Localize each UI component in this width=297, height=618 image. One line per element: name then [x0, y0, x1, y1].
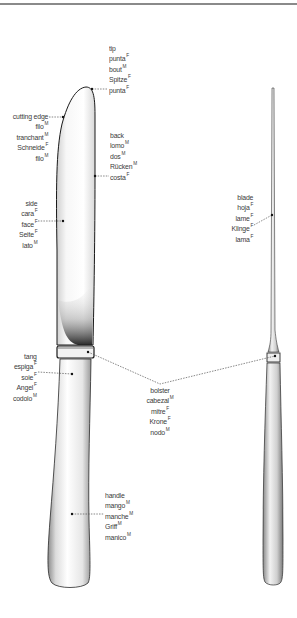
- term: tranchantM: [13, 133, 48, 143]
- term: nodoM: [143, 428, 177, 438]
- term: manicoM: [105, 533, 133, 543]
- knife-front-view: [48, 87, 95, 588]
- term: cabezalM: [143, 396, 177, 406]
- term: latoM: [19, 241, 37, 251]
- term: filoM: [13, 154, 48, 164]
- label-tip: tip puntaF boutM SpitzeF puntaF: [109, 44, 131, 96]
- term: mitreF: [143, 407, 177, 417]
- label-blade: blade hojaF lameF KlingeF lamaF: [231, 193, 253, 245]
- side-blade-shape: [268, 88, 279, 352]
- label-cutting-edge: cutting edge filoM tranchantM SchneideF …: [13, 112, 48, 164]
- knife-side-view: [263, 88, 283, 585]
- term: codoloM: [13, 394, 37, 404]
- side-bolster-shape: [267, 353, 280, 362]
- term: lamaF: [231, 235, 253, 245]
- label-tang: tang espigaF soieF AngelF codoloM: [13, 352, 37, 404]
- term: RückenM: [110, 162, 137, 172]
- term: back: [110, 131, 137, 141]
- term: puntaF: [109, 86, 131, 96]
- term: SchneideF: [13, 143, 48, 153]
- handle-shape: [48, 359, 91, 588]
- term: filoM: [13, 122, 48, 132]
- label-bolster: bolster cabezalM mitreF KroneF nodoM: [143, 386, 177, 438]
- side-handle-shape: [263, 363, 283, 585]
- term: cutting edge: [13, 112, 48, 122]
- label-side: side caraF faceF SeiteF latoM: [19, 199, 37, 251]
- label-handle: handle mangoM mancheM GriffM manicoM: [105, 491, 133, 543]
- term: KroneF: [143, 417, 177, 427]
- term: costaF: [110, 173, 137, 183]
- knife-illustration: [0, 0, 297, 618]
- term: puntaF: [109, 54, 131, 64]
- label-back: back lomoM dosM RückenM costaF: [110, 131, 137, 183]
